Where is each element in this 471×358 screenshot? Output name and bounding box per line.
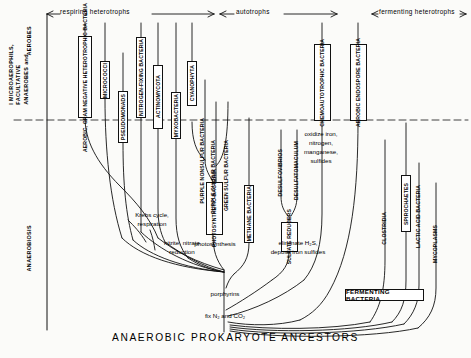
taxon-label-aerobic-gram-negative-heterotrophic-bacteria: AEROBIC, GRAM NEGATIVE HETEROTROPHIC BAC… bbox=[82, 3, 88, 152]
taxon-label-cyanophyta: CYANOPHYTA bbox=[189, 65, 195, 101]
taxon-label-wrap-purple-nonsulfur-bacteria: PURPLE NONSULFUR BACTERIA bbox=[199, 118, 205, 182]
taxon-box-aerobic-endospore-bacteria[interactable]: AEROBIC ENDOSPORE BACTERIA bbox=[350, 44, 367, 121]
axis-label-microaerophils: I MICROAEROPHILS, FACULTATIVE ANAEROBES … bbox=[8, 44, 30, 124]
note-eliminate-sulfide: eliminate H₂S, deposit iron sulfides bbox=[258, 239, 338, 257]
axis-label-anaerobiosis: ANAEROBIOSIS bbox=[26, 225, 33, 285]
taxon-label-myxobacteria: MYXOBACTERIA bbox=[173, 94, 179, 137]
taxon-box-micrococci[interactable]: MICROCOCCI bbox=[100, 61, 110, 99]
taxon-box-cyanophyta[interactable]: CYANOPHYTA bbox=[187, 61, 197, 106]
taxon-label-purple-nonsulfur-bacteria: PURPLE NONSULFUR BACTERIA bbox=[199, 118, 205, 204]
taxon-label-purple-sulfur-bacteria: PURPLE SULFUR BACTERIA bbox=[210, 140, 216, 214]
trunk-converge-right-5 bbox=[230, 322, 370, 328]
taxon-box-methane-bacteria[interactable]: METHANE BACTERIA bbox=[244, 185, 254, 243]
taxon-label-actinomycota: ACTINOMYCOTA bbox=[155, 75, 161, 118]
note-porphyrins: porphyrins bbox=[196, 290, 254, 299]
taxon-label-spirochaetes: SPIROCHAETES bbox=[403, 183, 409, 225]
taxon-box-pseudomonads[interactable]: PSEUDOMONADS bbox=[118, 91, 128, 143]
taxon-label-pseudomonads: PSEUDOMONADS bbox=[120, 94, 126, 140]
taxon-label-fermenting-bacteria: FERMENTING BACTERIA bbox=[346, 288, 423, 302]
figure-canvas: respiring heterotrophs autotrophs fermen… bbox=[0, 0, 471, 358]
taxon-label-green-sulfur-bacteria: GREEN SULFUR BACTERIA bbox=[223, 140, 229, 211]
taxon-box-aerobic-gram-negative-heterotrophic-bacteria[interactable]: AEROBIC, GRAM NEGATIVE HETEROTROPHIC BAC… bbox=[78, 36, 92, 118]
taxon-label-wrap-purple-sulfur-bacteria: PURPLE SULFUR BACTERIA bbox=[210, 140, 216, 202]
era-label-autotrophs: autotrophs bbox=[236, 8, 270, 15]
taxon-box-nitrogen-fixing-bacteria[interactable]: NITROGEN-FIXING BACTERIA bbox=[136, 37, 146, 118]
trunk-converge-right-1 bbox=[226, 274, 234, 288]
taxon-label-wrap-lactic-acid-bacteria: LACTIC ACID BACTERIA bbox=[415, 185, 421, 261]
taxon-label-wrap-mycoplasms: MYCOPLASMS bbox=[432, 225, 438, 271]
taxon-box-myxobacteria[interactable]: MYXOBACTERIA bbox=[171, 92, 181, 139]
note-fix-nitrogen-co2: fix N₂ and CO₂ bbox=[192, 312, 258, 321]
figure-bottom-title: ANAEROBIC PROKARYOTE ANCESTORS bbox=[0, 332, 471, 343]
branch-spirochaetes-stem bbox=[392, 232, 406, 322]
taxon-box-actinomycota[interactable]: ACTINOMYCOTA bbox=[153, 65, 163, 129]
axis-label-anaerobiosis-text: ANAEROBIOSIS bbox=[26, 225, 33, 271]
era-label-respiring-heterotrophs: respiring heterotrophs bbox=[60, 8, 130, 15]
era-label-fermenting-heterotrophs: fermenting heterotrophs bbox=[379, 8, 455, 15]
taxon-label-methane-bacteria: METHANE BACTERIA bbox=[246, 186, 252, 241]
taxon-label-desulfovibrios: DESULFOVIBRIOS bbox=[277, 149, 283, 196]
taxon-box-spirochaetes[interactable]: SPIROCHAETES bbox=[401, 175, 411, 232]
note-krebs-cycle: Krebs cycle, respiration bbox=[122, 211, 182, 229]
taxon-label-clostridia: CLOSTRIDIA bbox=[381, 212, 387, 245]
taxon-box-chemoautotrophic-bacteria[interactable]: CHEMOAUTOTROPHIC BACTERIA bbox=[314, 44, 331, 121]
axis-label-microaerophils-text: I MICROAEROPHILS, FACULTATIVE ANAEROBES … bbox=[8, 44, 30, 105]
taxon-label-aerobic-endospore-bacteria: AEROBIC ENDOSPORE BACTERIA bbox=[355, 38, 361, 127]
taxon-label-wrap-desulfovibrios: DESULFOVIBRIOS bbox=[277, 149, 283, 201]
taxon-label-wrap-green-sulfur-bacteria: GREEN SULFUR BACTERIA bbox=[223, 140, 229, 200]
taxon-label-mycoplasms: MYCOPLASMS bbox=[432, 225, 438, 263]
taxon-label-nitrogen-fixing-bacteria: NITROGEN-FIXING BACTERIA bbox=[138, 39, 144, 116]
note-oxidize-minerals: oxidize iron, nitrogen, manganese, sulfi… bbox=[290, 130, 352, 166]
note-photosynthesis: photosynthesis bbox=[186, 240, 244, 249]
taxon-label-lactic-acid-bacteria: LACTIC ACID BACTERIA bbox=[415, 185, 421, 248]
taxon-label-micrococci: MICROCOCCI bbox=[102, 63, 108, 98]
taxon-box-fermenting-bacteria[interactable]: FERMENTING BACTERIA bbox=[345, 289, 424, 301]
taxon-label-chemoautotrophic-bacteria: CHEMOAUTOTROPHIC BACTERIA bbox=[319, 39, 325, 127]
taxon-label-wrap-clostridia: CLOSTRIDIA bbox=[381, 212, 387, 260]
